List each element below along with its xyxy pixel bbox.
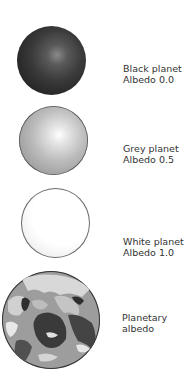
earth-label-line1: Planetary xyxy=(122,312,167,323)
black-planet-name: Black planet xyxy=(123,63,182,74)
black-planet-sphere xyxy=(17,26,86,95)
black-planet-label: Black planet Albedo 0.0 xyxy=(123,63,182,85)
grey-planet-sphere xyxy=(19,106,88,175)
white-planet-label: White planet Albedo 1.0 xyxy=(123,236,184,258)
earth-label-line2: albedo xyxy=(122,323,167,334)
grey-planet-label: Grey planet Albedo 0.5 xyxy=(123,143,179,165)
earth-surface-icon xyxy=(2,271,100,369)
white-planet-albedo: Albedo 1.0 xyxy=(123,247,184,258)
black-planet-albedo: Albedo 0.0 xyxy=(123,74,182,85)
grey-planet-name: Grey planet xyxy=(123,143,179,154)
grey-planet-albedo: Albedo 0.5 xyxy=(123,154,179,165)
white-planet-name: White planet xyxy=(123,236,184,247)
earth-globe xyxy=(2,271,100,369)
white-planet-sphere xyxy=(21,188,90,258)
earth-label: Planetary albedo xyxy=(122,312,167,334)
